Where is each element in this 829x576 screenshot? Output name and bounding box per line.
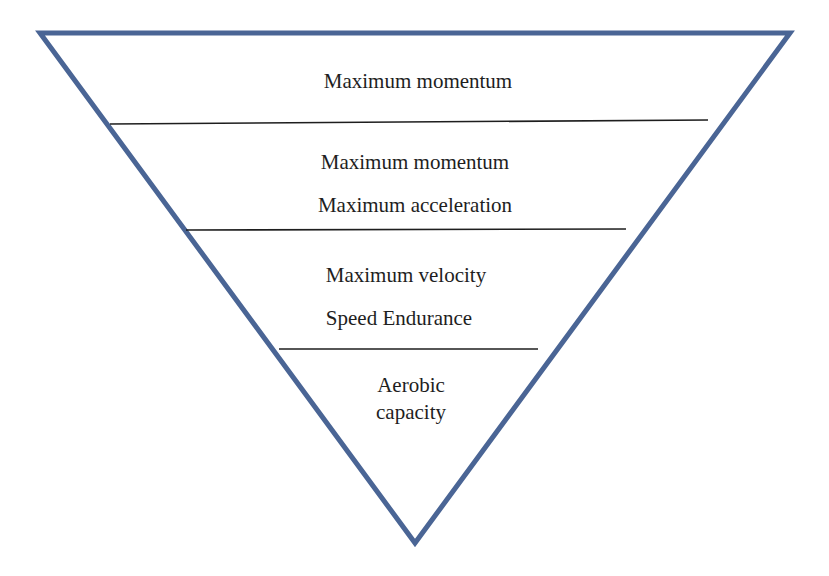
tier-2-label-momentum: Maximum momentum — [321, 150, 509, 174]
pyramid-outline — [40, 33, 790, 543]
tier-3-label-speed-endurance: Speed Endurance — [326, 306, 472, 330]
tier-4-label-capacity: capacity — [376, 400, 446, 424]
tier-4-label-aerobic: Aerobic — [377, 373, 445, 397]
tier-1-label-momentum: Maximum momentum — [324, 69, 512, 93]
tier-3-label-velocity: Maximum velocity — [326, 263, 486, 287]
tier-divider-2 — [186, 229, 626, 230]
tier-2-label-acceleration: Maximum acceleration — [318, 193, 512, 217]
